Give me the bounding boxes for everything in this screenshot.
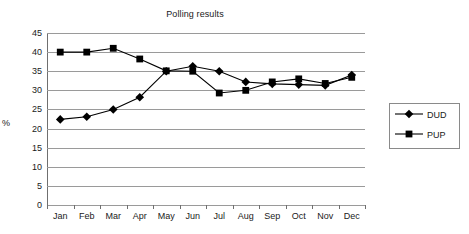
y-tick-label: 40 bbox=[16, 48, 42, 57]
data-point-marker bbox=[57, 49, 64, 56]
data-point-marker bbox=[295, 75, 302, 82]
y-tick-label: 35 bbox=[16, 67, 42, 76]
square-marker-icon bbox=[394, 127, 424, 141]
legend-item-dud[interactable]: DUD bbox=[390, 107, 459, 124]
y-tick-label: 0 bbox=[16, 201, 42, 210]
x-tick-mark bbox=[259, 205, 260, 209]
data-point-marker bbox=[241, 78, 250, 87]
y-tick-label: 25 bbox=[16, 105, 42, 114]
data-point-marker bbox=[216, 90, 223, 97]
x-tick-mark bbox=[127, 205, 128, 209]
y-tick-label: 20 bbox=[16, 125, 42, 134]
data-point-marker bbox=[83, 49, 90, 56]
polling-results-chart: Polling results % 454035302520151050 Jan… bbox=[0, 0, 469, 234]
x-tick-mark bbox=[180, 205, 181, 209]
x-tick-mark bbox=[153, 205, 154, 209]
x-tick-mark bbox=[100, 205, 101, 209]
x-tick-mark bbox=[74, 205, 75, 209]
data-point-marker bbox=[189, 68, 196, 75]
legend-item-pup[interactable]: PUP bbox=[390, 127, 459, 144]
y-tick-label: 10 bbox=[16, 163, 42, 172]
y-tick-label: 5 bbox=[16, 182, 42, 191]
series-dud bbox=[56, 62, 356, 124]
y-tick-label: 15 bbox=[16, 144, 42, 153]
data-point-marker bbox=[136, 56, 143, 63]
y-axis-title: % bbox=[2, 118, 10, 128]
data-point-marker bbox=[322, 80, 329, 87]
series-line bbox=[60, 66, 352, 119]
y-tick-label: 30 bbox=[16, 86, 42, 95]
series-pup bbox=[57, 45, 355, 97]
data-point-marker bbox=[348, 74, 355, 81]
series-layer bbox=[47, 33, 365, 205]
x-tick-mark bbox=[339, 205, 340, 209]
data-point-marker bbox=[82, 112, 91, 121]
plot-area bbox=[47, 33, 365, 205]
x-tick-mark bbox=[47, 205, 48, 209]
legend-label: PUP bbox=[427, 130, 446, 140]
diamond-marker-icon bbox=[394, 107, 424, 121]
series-line bbox=[60, 48, 352, 93]
data-point-marker bbox=[215, 67, 224, 76]
data-point-marker bbox=[109, 105, 118, 114]
data-point-marker bbox=[269, 79, 276, 86]
data-point-marker bbox=[242, 87, 249, 94]
x-tick-mark bbox=[312, 205, 313, 209]
y-axis-tick-labels: 454035302520151050 bbox=[12, 0, 42, 234]
x-tick-mark bbox=[286, 205, 287, 209]
data-point-marker bbox=[110, 45, 117, 52]
legend-label: DUD bbox=[427, 110, 447, 120]
chart-title: Polling results bbox=[0, 9, 390, 19]
legend: DUDPUP bbox=[389, 103, 460, 149]
x-tick-mark bbox=[206, 205, 207, 209]
x-tick-label: Dec bbox=[332, 211, 372, 221]
x-tick-mark bbox=[233, 205, 234, 209]
data-point-marker bbox=[163, 67, 170, 74]
data-point-marker bbox=[56, 115, 65, 124]
y-tick-label: 45 bbox=[16, 29, 42, 38]
x-tick-mark bbox=[365, 205, 366, 209]
